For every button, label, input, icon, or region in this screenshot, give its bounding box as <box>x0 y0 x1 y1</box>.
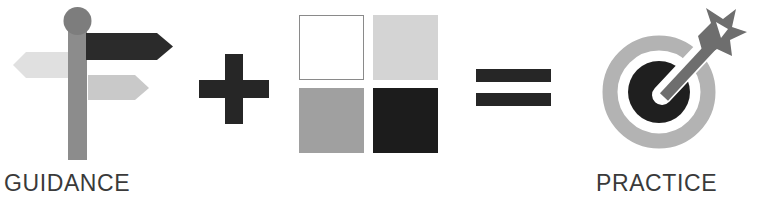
improvement-term: IMPROVEMENT <box>580 0 757 165</box>
signpost-icon <box>0 0 195 165</box>
caption-guidance: GUIDANCE <box>4 170 130 197</box>
practice-square-bottom-left <box>299 88 364 153</box>
equals-operator <box>476 66 554 110</box>
signpost-post <box>68 18 87 160</box>
practice-term: PRACTICE <box>290 0 450 165</box>
target-dart-icon <box>580 0 757 165</box>
plus-vertical-bar <box>225 54 243 124</box>
diagram-canvas: GUIDANCE PRACTICE <box>0 0 757 211</box>
plus-operator <box>199 54 269 124</box>
signpost-finial-ball <box>64 7 92 35</box>
caption-practice: PRACTICE <box>596 170 717 197</box>
practice-square-bottom-right <box>373 88 438 153</box>
practice-square-top-left <box>299 15 364 80</box>
guidance-term: GUIDANCE <box>0 0 195 165</box>
equals-top-bar <box>476 69 551 82</box>
equals-bottom-bar <box>476 93 551 106</box>
sign-left-light-icon <box>13 52 68 78</box>
sign-right-dark-icon <box>86 33 173 60</box>
practice-square-top-right <box>373 15 438 80</box>
sign-right-grey-icon <box>88 75 149 100</box>
